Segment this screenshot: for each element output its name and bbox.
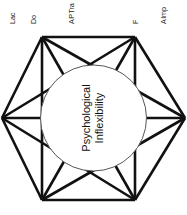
node-label-lack-text: Lac	[8, 13, 17, 24]
node-label-lack: Lac	[9, 13, 17, 24]
node-label-dominance: Do	[30, 15, 38, 24]
node-label-fusion: F	[132, 20, 140, 24]
center-label-line1: Psychological	[80, 84, 92, 151]
center-label: Psychological Inflexibility	[80, 84, 105, 151]
hexaflex-figure: Lac Do Tra P A F Imp A	[0, 0, 187, 215]
node-label-transformation-line1: Tra	[68, 3, 76, 13]
node-label-transformation-line3: A	[68, 19, 76, 24]
node-label-impact-line2: A	[160, 19, 168, 24]
node-label-fusion-text: F	[131, 20, 140, 24]
node-label-transformation: Tra P A	[68, 3, 76, 24]
label-band: Lac Do Tra P A F Imp A	[0, 0, 187, 26]
node-label-dominance-text: Do	[29, 15, 38, 24]
hexagon-diagram: Psychological Inflexibility	[0, 25, 187, 215]
node-label-impact-line1: Imp	[160, 7, 168, 19]
node-label-transformation-line2: P	[68, 14, 76, 19]
node-label-impact: Imp A	[160, 7, 168, 24]
center-label-line2: Inflexibility	[93, 92, 105, 143]
